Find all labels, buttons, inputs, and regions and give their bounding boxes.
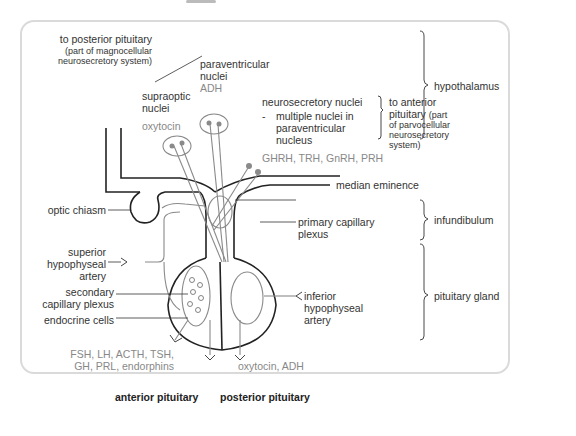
primary-plexus-label: primary capillary: [298, 216, 374, 228]
posterior-pituitary-label: posterior pituitary: [220, 391, 310, 403]
anterior-hormones-label: FSH, LH, ACTH, TSH,: [50, 348, 174, 360]
hypothalamus-outline-left: [106, 128, 140, 192]
median-eminence-label: median eminence: [336, 179, 419, 191]
adh-label: ADH: [200, 82, 222, 94]
to-posterior-sub2: neurosecretory system): [50, 56, 152, 67]
to-posterior-label: to posterior pituitary: [50, 33, 152, 45]
neurosecretory-dash: -: [262, 110, 266, 122]
inferior-artery-label-2: hypophyseal: [304, 302, 363, 314]
inferior-artery-label: inferior: [304, 290, 336, 302]
secondary-capillary-plexus: [182, 266, 210, 326]
neurosecretory-line2: paraventricular: [276, 122, 345, 134]
to-anterior-label: to anterior: [389, 96, 436, 108]
hypothalamus-region-label: hypothalamus: [434, 80, 499, 92]
infundibulum-right: [234, 195, 240, 258]
to-anterior-sub1: of parvocellular: [389, 120, 450, 131]
posterior-leader: [155, 56, 202, 82]
neurosecretory-line1: multiple nuclei in: [276, 110, 354, 122]
neurosecretory-title: neurosecretory nuclei: [262, 96, 362, 108]
posterior-hormones-label: oxytocin, ADH: [238, 360, 304, 372]
superior-artery-label: superior: [20, 246, 106, 258]
secondary-plexus-label: secondary: [20, 286, 114, 298]
to-anterior-bracket: [378, 96, 383, 139]
optic-chiasm-outline: [130, 192, 200, 223]
oxytocin-label: oxytocin: [142, 120, 181, 132]
paraventricular-label-2: nuclei: [200, 70, 227, 82]
releasing-hormones-label: GHRH, TRH, GnRH, PRH: [262, 152, 383, 164]
to-posterior-sub1: (part of magnocellular: [50, 46, 152, 57]
pituitary-bracket: [420, 244, 428, 340]
infundibulum-region-label: infundibulum: [434, 214, 494, 226]
paraventricular-nucleus-cell-group: [200, 114, 228, 134]
endocrine-cells: [188, 278, 204, 313]
supraoptic-label: supraoptic: [142, 90, 190, 102]
endocrine-cells-label: endocrine cells: [20, 314, 114, 326]
neuron-cell-bodies: [170, 121, 262, 176]
superior-artery-label-3: artery: [20, 270, 106, 282]
superior-hypophyseal-artery-vessel: [145, 212, 180, 262]
third-ventricle-floor-right: [215, 176, 340, 192]
infundibulum-bracket: [420, 200, 428, 240]
primary-plexus-label-2: plexus: [298, 228, 328, 240]
to-anterior-sub2: neurosecretory: [389, 130, 449, 141]
superior-artery-label-2: hypophyseal: [20, 258, 106, 270]
secondary-plexus-label-2: capillary plexus: [20, 298, 114, 310]
supraoptic-label-2: nuclei: [142, 102, 169, 114]
median-eminence-line: [240, 185, 330, 195]
anterior-hormones-label-2: GH, PRL, endorphins: [50, 360, 174, 372]
anterior-pituitary-label: anterior pituitary: [115, 391, 198, 403]
pituitary-gland-region-label: pituitary gland: [434, 290, 499, 302]
paraventricular-label: paraventricular: [200, 58, 269, 70]
optic-chiasm-label: optic chiasm: [30, 204, 106, 216]
to-anterior-sub3: system): [389, 140, 421, 151]
inferior-artery-label-3: artery: [304, 314, 331, 326]
to-anterior-label-2: pituitary (part: [389, 108, 447, 121]
posterior-capillary-net: [231, 272, 263, 324]
third-ventricle-floor-left: [121, 128, 215, 192]
pituitary-midline: [220, 262, 222, 350]
neurosecretory-line3: nucleus: [276, 134, 312, 146]
